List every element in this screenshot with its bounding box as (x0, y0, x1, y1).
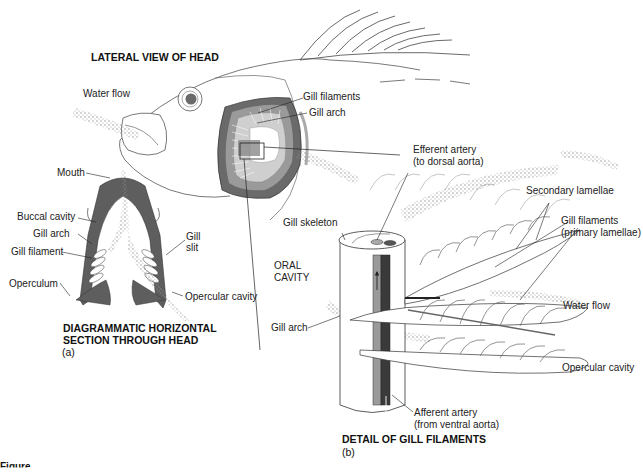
gill-arch-label-head: Gill arch (309, 107, 346, 118)
opercular-cavity-label-section: Opercular cavity (185, 291, 257, 302)
water-flow-label-head: Water flow (83, 88, 130, 99)
gill-arch-label-detail: Gill arch (271, 322, 308, 333)
figure-caption-clipped: Figure (0, 461, 31, 472)
afferent-artery-opening (384, 241, 396, 246)
gill-filaments-label-detail-1: Gill filaments (561, 215, 618, 226)
horizontal-section (60, 170, 190, 322)
detail-sublabel: (b) (342, 446, 355, 458)
gill-filaments-label-head: Gill filaments (303, 91, 360, 102)
efferent-artery-label-2: (to dorsal aorta) (413, 156, 484, 167)
section-title-line1: DIAGRAMMATIC HORIZONTAL (63, 322, 217, 334)
efferent-artery-label-1: Efferent artery (413, 144, 476, 155)
secondary-lamellae-label: Secondary lamellae (526, 185, 614, 196)
operculum-label: Operculum (9, 278, 58, 289)
water-flow-label-detail: Water flow (563, 300, 610, 311)
gill-cutaway (218, 97, 307, 198)
section-title-line2: SECTION THROUGH HEAD (63, 334, 198, 346)
dorsal-fin (300, 10, 470, 60)
opercular-cavity-label-detail: Opercular cavity (562, 362, 634, 373)
afferent-artery-label-2: (from ventral aorta) (414, 419, 499, 430)
gill-slit-label-1: Gill (186, 231, 200, 242)
detail-title: DETAIL OF GILL FILAMENTS (342, 433, 486, 445)
afferent-artery (381, 255, 390, 405)
oral-cavity-label-2: CAVITY (274, 272, 309, 283)
gill-skeleton-label: Gill skeleton (283, 217, 337, 228)
section-sublabel: (a) (62, 346, 75, 358)
oral-cavity-label-1: ORAL (274, 260, 301, 271)
mouth-label: Mouth (57, 167, 85, 178)
buccal-cavity-label: Buccal cavity (17, 211, 75, 222)
gill-slit-label-2: slit (186, 242, 198, 253)
gill-arch-label-section: Gill arch (33, 228, 70, 239)
lateral-view-title: LATERAL VIEW OF HEAD (91, 51, 219, 63)
gill-filaments-label-detail-2: (primary lamellae) (561, 227, 641, 238)
afferent-artery-label-1: Afferent artery (414, 407, 477, 418)
gill-filament-label-section: Gill filament (11, 246, 63, 257)
efferent-artery-opening (371, 240, 383, 245)
